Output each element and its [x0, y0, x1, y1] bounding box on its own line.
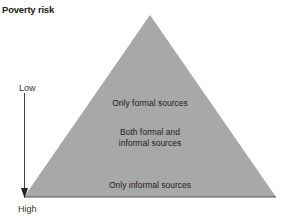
level-label-formal: Only formal sources: [112, 98, 188, 109]
level-label-both: Both formal and informal sources: [119, 127, 181, 149]
axis-label-low: Low: [19, 83, 36, 93]
level-label-text: Only informal sources: [109, 180, 191, 190]
level-label-informal: Only informal sources: [109, 180, 191, 191]
level-label-text: Only formal sources: [112, 98, 188, 108]
level-label-text-line1: Both formal and: [119, 127, 181, 138]
level-label-text-line2: informal sources: [119, 138, 181, 149]
axis-label-high: High: [18, 204, 37, 214]
